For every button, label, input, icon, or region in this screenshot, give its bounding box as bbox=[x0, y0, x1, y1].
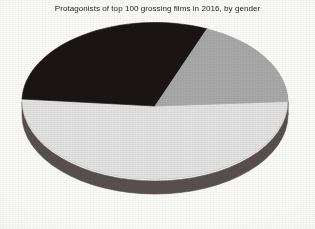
chart-screenshot: Protagonists of top 100 grossing films i… bbox=[0, 0, 315, 229]
pie-chart-svg bbox=[0, 0, 315, 229]
pie-chart bbox=[0, 0, 315, 229]
